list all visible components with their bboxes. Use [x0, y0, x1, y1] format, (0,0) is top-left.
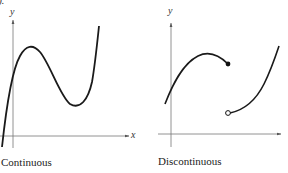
discontinuous-graph — [158, 23, 281, 147]
graphs-canvas — [0, 0, 288, 173]
left-y-axis-label: y — [10, 6, 14, 17]
filled-dot — [226, 62, 231, 67]
continuous-caption: Continuous — [1, 156, 52, 168]
continuous-curve — [2, 26, 99, 147]
right-curve-piece — [230, 46, 279, 113]
continuous-graph — [0, 20, 129, 148]
right-y-axis-label: y — [168, 5, 172, 16]
left-curve-piece — [165, 54, 228, 104]
discontinuous-caption: Discontinuous — [158, 155, 222, 167]
left-x-axis-label: x — [131, 129, 135, 140]
open-dot — [226, 111, 231, 116]
